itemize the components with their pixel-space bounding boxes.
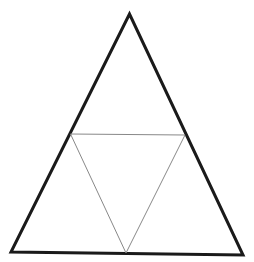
background	[0, 0, 254, 262]
sierpinski-diagram	[0, 0, 254, 262]
